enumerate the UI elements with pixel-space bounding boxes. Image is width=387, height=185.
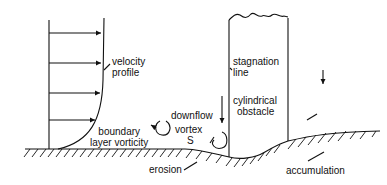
label-cylindrical-obstacle: cylindrical obstacle bbox=[233, 95, 277, 117]
cylindrical-obstacle bbox=[229, 13, 288, 157]
boundary-vortex-icon bbox=[156, 121, 170, 135]
label-vortex-symbol: S bbox=[187, 135, 194, 146]
label-boundary-layer-vorticity: boundary layer vorticity bbox=[90, 126, 148, 148]
vortex-icon bbox=[213, 132, 227, 148]
label-vortex: vortex bbox=[175, 124, 202, 135]
scour-diagram bbox=[0, 0, 387, 185]
ground-surface bbox=[25, 131, 380, 158]
label-downflow: downflow bbox=[171, 110, 213, 121]
label-erosion: erosion bbox=[149, 164, 182, 175]
diagram-root: velocity profile stagnation line cylindr… bbox=[0, 0, 387, 185]
label-stagnation-line: stagnation line bbox=[233, 56, 279, 78]
label-velocity-profile: velocity profile bbox=[112, 56, 145, 78]
label-accumulation: accumulation bbox=[286, 165, 345, 176]
